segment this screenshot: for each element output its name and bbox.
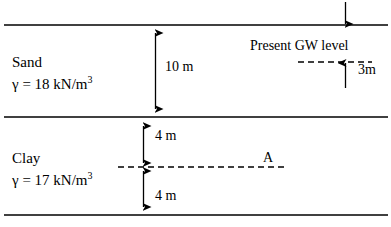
soil-profile-figure: Sand γ = 18 kN/m3 Clay γ = 17 kN/m3 10 m…	[0, 0, 391, 227]
sand-unit-weight-text: γ = 18 kN/m	[12, 76, 88, 92]
clay-lower-thickness-label: 4 m	[155, 188, 176, 205]
groundwater-depth-label: 3m	[358, 62, 376, 79]
sand-unit-weight: γ = 18 kN/m3	[12, 74, 93, 94]
sand-thickness-label: 10 m	[165, 59, 193, 76]
clay-unit-weight-exponent: 3	[88, 170, 93, 181]
groundwater-level-label: Present GW level	[250, 38, 349, 55]
point-a-label: A	[263, 150, 273, 167]
clay-layer-name: Clay	[12, 150, 40, 168]
sand-unit-weight-exponent: 3	[88, 74, 93, 85]
clay-unit-weight-text: γ = 17 kN/m	[12, 172, 88, 188]
profile-drawing	[0, 0, 391, 227]
clay-unit-weight: γ = 17 kN/m3	[12, 170, 93, 190]
sand-layer-name: Sand	[12, 54, 42, 72]
clay-upper-thickness-label: 4 m	[155, 128, 176, 145]
